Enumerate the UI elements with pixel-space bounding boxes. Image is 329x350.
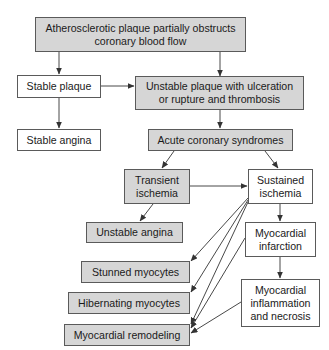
arrow-inflammation-to-remodeling (191, 302, 241, 333)
node-sustained-ischemia: Sustained ischemia (248, 169, 313, 204)
node-atherosclerotic-plaque: Atherosclerotic plaque partially obstruc… (35, 17, 246, 52)
arrow-sustained-to-stunned (191, 198, 248, 261)
node-unstable-angina: Unstable angina (86, 222, 183, 243)
arrow-sustained-to-hibernating (191, 200, 248, 292)
node-hibernating-myocytes: Hibernating myocytes (68, 292, 190, 314)
node-myocardial-remodeling: Myocardial remodeling (64, 324, 190, 346)
arrow-acs-to-sustained (265, 151, 278, 168)
node-myocardial-infarction: Myocardial infarction (245, 222, 316, 257)
node-stable-angina: Stable angina (17, 129, 101, 151)
node-transient-ischemia: Transient ischemia (124, 169, 190, 204)
node-myocardial-inflammation: Myocardial inflammation and necrosis (241, 279, 320, 327)
arrow-acs-to-transient (162, 151, 174, 168)
arrow-transient-to-unstable-angina (140, 204, 153, 221)
node-stunned-myocytes: Stunned myocytes (81, 261, 190, 283)
arrow-sustained-to-remodeling (191, 202, 248, 324)
node-acute-coronary-syndromes: Acute coronary syndromes (148, 129, 293, 151)
node-stable-plaque: Stable plaque (17, 75, 101, 98)
node-unstable-plaque: Unstable plaque with ulceration or ruptu… (135, 76, 304, 110)
